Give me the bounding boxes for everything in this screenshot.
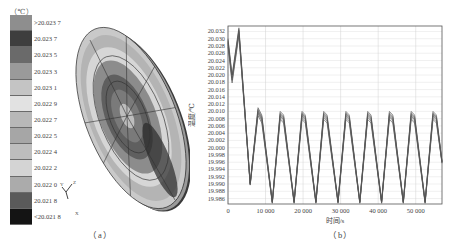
caption-b: （b） (328, 228, 353, 240)
y-tick-label: 20.020 (208, 71, 225, 78)
y-axis-label: 温度/℃ (188, 103, 196, 127)
y-tick-label: 20.008 (208, 115, 225, 122)
x-tick-label: 20 000 (294, 207, 312, 214)
y-tick-label: 19.994 (208, 165, 226, 172)
y-tick-label: 20.030 (208, 35, 225, 42)
y-tick-label: 20.022 (208, 64, 225, 71)
x-tick-label: 30 000 (332, 207, 350, 214)
line-chart: 20.03220.03020.02820.02620.02420.02220.0… (188, 0, 454, 250)
y-tick-label: 19.986 (208, 195, 225, 202)
y-tick-label: 19.990 (208, 180, 225, 187)
axis-y-label: Y (60, 182, 64, 187)
axis-x-label: X (75, 211, 79, 216)
disk-contour-image: Z Y X (0, 0, 190, 250)
y-tick-label: 20.010 (208, 107, 225, 114)
y-tick-label: 20.006 (208, 122, 225, 129)
y-tick-label: 20.032 (208, 27, 225, 34)
panel-a-contour-plot: （℃） >20.023 720.023 720.023 520.023 320.… (0, 0, 190, 250)
panel-b-temperature-chart: 20.03220.03020.02820.02620.02420.02220.0… (188, 0, 454, 250)
y-tick-label: 19.996 (208, 158, 225, 165)
y-tick-label: 20.000 (208, 144, 225, 151)
y-tick-label: 20.016 (208, 86, 225, 93)
y-tick-label: 20.018 (208, 78, 225, 85)
x-tick-label: 0 (226, 207, 229, 214)
y-tick-label: 20.004 (208, 129, 226, 136)
caption-a: （a） (88, 228, 113, 240)
y-tick-label: 20.026 (208, 49, 225, 56)
y-tick-label: 20.028 (208, 42, 225, 49)
y-tick-label: 20.002 (208, 136, 225, 143)
y-tick-label: 20.024 (208, 57, 226, 64)
y-tick-label: 19.998 (208, 151, 225, 158)
y-tick-label: 19.988 (208, 187, 225, 194)
x-tick-label: 50 000 (407, 207, 425, 214)
y-tick-label: 19.992 (208, 173, 225, 180)
axis-z-label: Z (73, 180, 76, 185)
y-tick-label: 20.012 (208, 100, 225, 107)
x-tick-label: 40 000 (369, 207, 387, 214)
x-tick-label: 10 000 (257, 207, 275, 214)
y-tick-label: 20.014 (208, 93, 226, 100)
x-axis-label: 时间/s (326, 216, 345, 225)
